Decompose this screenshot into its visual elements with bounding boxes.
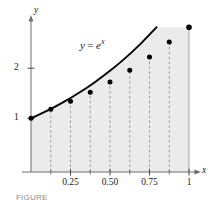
data-point bbox=[127, 68, 132, 73]
data-point bbox=[48, 107, 53, 112]
x-axis-arrow-icon bbox=[195, 170, 202, 175]
equation-operator: = bbox=[85, 39, 96, 51]
data-point bbox=[167, 40, 172, 45]
x-tick-label-0-25: 0.25 bbox=[62, 178, 79, 188]
y-axis-arrow-icon bbox=[29, 15, 34, 22]
y-axis-label: y bbox=[34, 6, 38, 16]
y-tick-label-2: 2 bbox=[14, 63, 19, 73]
plot-canvas bbox=[0, 0, 210, 200]
equation-exponent: x bbox=[101, 37, 105, 46]
data-point bbox=[186, 24, 192, 30]
figure-container: y x 1 2 0.25 0.50 0.75 1 y=ex FIGURE bbox=[0, 0, 210, 200]
curve-equation-label: y=ex bbox=[80, 38, 105, 51]
x-tick-label-0-50: 0.50 bbox=[102, 178, 119, 188]
x-tick-label-1: 1 bbox=[187, 178, 192, 188]
x-tick-label-0-75: 0.75 bbox=[141, 178, 158, 188]
y-tick-label-1: 1 bbox=[14, 114, 19, 124]
x-axis-label: x bbox=[202, 166, 206, 176]
data-point bbox=[88, 90, 93, 95]
data-point bbox=[147, 55, 152, 60]
data-point bbox=[29, 116, 34, 121]
figure-caption: FIGURE bbox=[16, 194, 47, 200]
data-point bbox=[68, 99, 73, 104]
data-point bbox=[108, 79, 113, 84]
